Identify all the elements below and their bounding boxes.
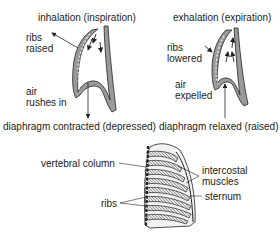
ribs-lowered-label-line1: ribs xyxy=(167,42,183,53)
air-expelled-label-line2: expelled xyxy=(175,90,212,101)
ribs-lowered-label-line2: lowered xyxy=(167,53,202,64)
air-rushes-in-label-line2: rushes in xyxy=(26,97,67,108)
ribs-raised-label-line1: ribs xyxy=(26,32,42,43)
inhalation-title: inhalation (inspiration) xyxy=(38,12,136,23)
intercostal-muscles-label-line1: intercostal xyxy=(202,165,248,176)
air-rushes-in-label-line1: air xyxy=(26,86,37,97)
diaphragm-contracted-label: diaphragm contracted (depressed) xyxy=(3,121,156,132)
ribs-label: ribs xyxy=(101,198,117,209)
diaphragm-relaxed-label: diaphragm relaxed (raised) xyxy=(159,121,279,132)
ribcage-illustration xyxy=(119,144,202,228)
sternum-label: sternum xyxy=(205,191,241,202)
exhalation-title: exhalation (expiration) xyxy=(173,12,271,23)
ribs-raised-label-line2: raised xyxy=(26,43,53,54)
exhalation-thorax-illustration xyxy=(205,28,248,118)
vertebral-column-label: vertebral column xyxy=(41,158,115,169)
intercostal-muscles-label-line2: muscles xyxy=(202,176,239,187)
air-expelled-label-line1: air xyxy=(175,79,186,90)
